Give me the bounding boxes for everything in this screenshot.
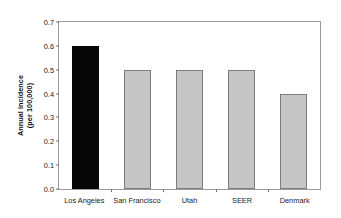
x-tick-mark <box>216 189 217 192</box>
bar <box>280 94 307 189</box>
y-tick-label: 0.2 <box>44 137 56 146</box>
y-tick-label: 0.0 <box>44 185 56 194</box>
y-tick: 0.2 <box>44 137 59 146</box>
y-tick-label: 0.6 <box>44 41 56 50</box>
y-tick-label: 0.1 <box>44 161 56 170</box>
bar-chart: Annual incidence (per 100,000) 0.00.10.2… <box>0 0 341 218</box>
y-tick: 0.7 <box>44 18 59 27</box>
y-tick: 0.0 <box>44 185 59 194</box>
bar <box>124 70 151 189</box>
x-axis-label: Utah <box>163 195 216 211</box>
y-axis-title: Annual incidence (per 100,000) <box>12 21 38 190</box>
bar-slot <box>268 22 320 189</box>
y-tick-label: 0.7 <box>44 18 56 27</box>
y-axis-title-line-1: Annual incidence <box>16 75 25 136</box>
bar-slot <box>111 22 163 189</box>
bar <box>176 70 203 189</box>
bar <box>72 46 99 189</box>
y-tick: 0.5 <box>44 65 59 74</box>
y-tick: 0.1 <box>44 161 59 170</box>
y-tick-label: 0.5 <box>44 65 56 74</box>
bar <box>228 70 255 189</box>
y-tick: 0.4 <box>44 89 59 98</box>
y-tick: 0.6 <box>44 41 59 50</box>
y-tick: 0.3 <box>44 113 59 122</box>
x-tick-mark <box>163 189 164 192</box>
x-axis-label: SEER <box>216 195 269 211</box>
x-axis-label: San Francisco <box>111 195 164 211</box>
bar-slot <box>216 22 268 189</box>
bars-container <box>59 22 320 189</box>
y-tick-label: 0.3 <box>44 113 56 122</box>
y-tick-label: 0.4 <box>44 89 56 98</box>
x-tick-mark <box>268 189 269 192</box>
bar-slot <box>59 22 111 189</box>
y-axis-title-line-2: (per 100,000) <box>25 83 34 128</box>
x-tick-mark <box>111 189 112 192</box>
x-axis-label: Denmark <box>268 195 321 211</box>
plot-area: 0.00.10.20.30.40.50.60.7 <box>58 21 321 190</box>
bar-slot <box>163 22 215 189</box>
x-axis-label: Los Angeles <box>58 195 111 211</box>
x-axis-labels: Los AngelesSan FranciscoUtahSEERDenmark <box>58 195 321 211</box>
